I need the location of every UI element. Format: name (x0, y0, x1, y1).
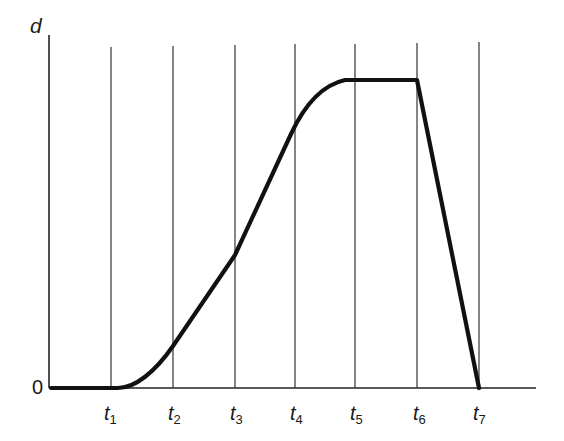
tick-label-t1: t1 (104, 402, 117, 427)
displacement-curve (51, 80, 479, 388)
tick-label-t6: t6 (413, 402, 426, 427)
tick-label-t7: t7 (473, 402, 486, 427)
tick-label-t5: t5 (350, 402, 363, 427)
origin-label: 0 (32, 376, 43, 399)
grid-lines (111, 42, 479, 388)
displacement-time-chart (0, 0, 564, 441)
tick-label-t2: t2 (168, 402, 181, 427)
tick-label-t3: t3 (230, 402, 243, 427)
tick-label-t4: t4 (290, 402, 303, 427)
y-axis-label: d (30, 14, 42, 38)
